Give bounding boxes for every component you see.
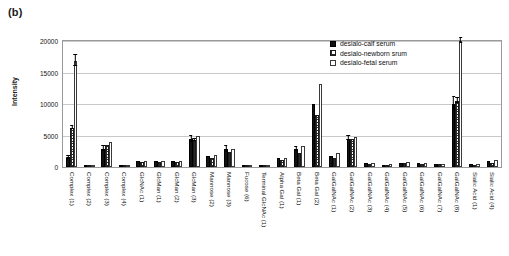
x-axis-label-slot: GalGalNAc (7) xyxy=(431,170,449,254)
x-axis-label: GalGalNAc (3) xyxy=(366,172,373,212)
x-axis-label: GlcMan (1) xyxy=(156,172,163,203)
x-axis-label-slot: GlcMan (2) xyxy=(168,170,186,254)
x-axis-label: GalGalNAc (8) xyxy=(454,172,461,212)
bar-group xyxy=(81,41,99,167)
bar xyxy=(214,155,218,167)
x-axis-label-slot: Mannose (2) xyxy=(203,170,221,254)
bars-layer xyxy=(63,41,501,167)
bar-group xyxy=(448,41,466,167)
bar xyxy=(144,161,148,167)
x-axis-label-slot: GalGalNAc (4) xyxy=(378,170,396,254)
y-axis-tick-20000: 20000 xyxy=(40,38,58,45)
x-axis-label: Complex (2) xyxy=(86,172,93,206)
x-axis-label-slot: Mannose (3) xyxy=(221,170,239,254)
x-axis-label-slot: GalGalNAc (3) xyxy=(361,170,379,254)
bar xyxy=(91,165,95,167)
bar xyxy=(266,165,270,167)
x-axis-label-slot: GalGalNAc (2) xyxy=(343,170,361,254)
error-bar xyxy=(74,54,78,67)
x-axis-label-slot: Sialic Acid (1) xyxy=(466,170,484,254)
bar-group xyxy=(483,41,501,167)
x-axis-tick-labels: Complex (1)Complex (2)Complex (3)Complex… xyxy=(63,170,501,254)
bar-group xyxy=(221,41,239,167)
y-axis-tick-labels: 05000100001500020000 xyxy=(0,40,58,168)
bar-group xyxy=(203,41,221,167)
x-axis-label-slot: Complex (3) xyxy=(98,170,116,254)
x-axis-label-slot: Beta Gal (1) xyxy=(291,170,309,254)
x-axis-label: Mannose (3) xyxy=(226,172,233,207)
x-axis-label-slot: Complex (4) xyxy=(116,170,134,254)
bar-group xyxy=(186,41,204,167)
x-axis-label: GalGalNAc (6) xyxy=(419,172,426,212)
legend-item: desialo-fetal serum xyxy=(330,59,407,66)
error-bar xyxy=(224,145,228,151)
legend-label: desialo-fetal serum xyxy=(340,59,397,66)
x-axis-label: Sialic Acid (4) xyxy=(489,172,496,209)
panel-label: (b) xyxy=(8,6,23,18)
bar-group xyxy=(151,41,169,167)
bar xyxy=(494,160,498,167)
error-bar xyxy=(459,37,463,43)
x-axis-label-slot: GalGalNAc (5) xyxy=(396,170,414,254)
bar-group xyxy=(431,41,449,167)
bar-group xyxy=(291,41,309,167)
x-axis-label: Fucose (6) xyxy=(243,172,250,202)
bar xyxy=(249,165,253,167)
bar xyxy=(179,161,183,167)
y-axis-tick-15000: 15000 xyxy=(40,69,58,76)
chart-legend: desialo-calf serumdesialo-newborn srumde… xyxy=(330,40,407,66)
bar xyxy=(319,84,323,167)
bar-group xyxy=(256,41,274,167)
x-axis-label: Mannose (2) xyxy=(208,172,215,207)
bar-group xyxy=(63,41,81,167)
legend-label: desialo-calf serum xyxy=(340,40,395,47)
x-axis-label: GalGalNAc (1) xyxy=(331,172,338,212)
x-axis-label: GlcMan (3) xyxy=(191,172,198,203)
x-axis-label-slot: Beta Gal (2) xyxy=(308,170,326,254)
bar-group xyxy=(168,41,186,167)
bar xyxy=(231,149,235,167)
x-axis-label: Beta Gal (2) xyxy=(313,172,320,205)
bar xyxy=(161,161,165,167)
x-axis-label-slot: Alpha Gal (1) xyxy=(273,170,291,254)
bar xyxy=(371,163,375,167)
x-axis-label-slot: Complex (1) xyxy=(63,170,81,254)
bar xyxy=(354,137,358,167)
x-axis-label-slot: GlcMan (1) xyxy=(151,170,169,254)
x-axis-label-slot: Fucose (6) xyxy=(238,170,256,254)
y-axis-tick-0: 0 xyxy=(54,164,58,171)
bar xyxy=(301,146,305,167)
legend-item: desialo-calf serum xyxy=(330,40,407,47)
x-axis-label-slot: GalGalNAc (1) xyxy=(326,170,344,254)
x-axis-label-slot: GalGalNAc (6) xyxy=(413,170,431,254)
bar xyxy=(284,158,288,167)
bar-group xyxy=(98,41,116,167)
x-axis-label: Complex (1) xyxy=(68,172,75,206)
x-axis-label: GalGalNAc (4) xyxy=(384,172,391,212)
bar xyxy=(109,142,113,167)
x-axis-label: Alpha Gal (1) xyxy=(278,172,285,208)
x-axis-label: Terminal GlcNAc (1) xyxy=(261,172,268,227)
y-axis-tick-10000: 10000 xyxy=(40,101,58,108)
error-bar xyxy=(294,146,298,150)
bar xyxy=(389,164,393,167)
x-axis-label-slot: Complex (2) xyxy=(81,170,99,254)
bar xyxy=(406,162,410,167)
bar-group xyxy=(238,41,256,167)
x-axis-label: GalGalNAc (2) xyxy=(349,172,356,212)
x-axis-label-slot: Terminal GlcNAc (1) xyxy=(256,170,274,254)
bar xyxy=(476,164,480,167)
legend-swatch-icon xyxy=(330,60,336,66)
bar xyxy=(441,164,445,167)
legend-swatch-icon xyxy=(330,50,336,56)
bar-group xyxy=(133,41,151,167)
bar-group xyxy=(413,41,431,167)
x-axis-label-slot: GalGalNAc (8) xyxy=(448,170,466,254)
bar xyxy=(196,136,200,167)
x-axis-label-slot: Sialic Acid (4) xyxy=(483,170,501,254)
x-axis-label: Sialic Acid (1) xyxy=(471,172,478,209)
x-axis-label: Beta Gal (1) xyxy=(296,172,303,205)
bar xyxy=(459,41,463,167)
x-axis-label-slot: GlcNAc (1) xyxy=(133,170,151,254)
legend-swatch-icon xyxy=(330,41,336,47)
